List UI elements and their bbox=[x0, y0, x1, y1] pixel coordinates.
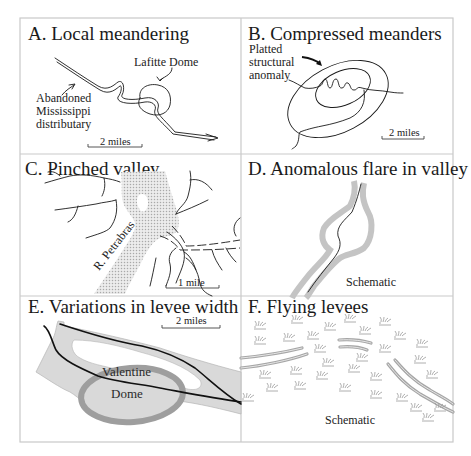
flying-levees-core bbox=[241, 340, 453, 412]
panel-f-title: F. Flying levees bbox=[248, 296, 368, 317]
scale-bar-c: 1 mile bbox=[166, 277, 219, 288]
schematic-label-f: Schematic bbox=[325, 413, 375, 427]
panel-d-title: D. Anomalous flare in valley bbox=[248, 158, 469, 179]
panel-c: C. Pinched valley R. Petrabras bbox=[25, 158, 240, 296]
svg-text:1 mile: 1 mile bbox=[178, 277, 205, 288]
lafitte-arrow bbox=[157, 68, 172, 81]
dashed-channel-2 bbox=[160, 236, 240, 250]
lafitte-dome-label: Lafitte Dome bbox=[134, 55, 198, 69]
geomorphic-anomalies-figure: A. Local meandering Lafitte Dome Abandon… bbox=[0, 0, 471, 456]
marsh-grass-symbols bbox=[242, 314, 446, 421]
panel-f: F. Flying levees bbox=[241, 296, 453, 427]
anomaly-label-2: structural bbox=[249, 55, 295, 69]
dome-label: Dome bbox=[111, 386, 143, 401]
panel-b-title: B. Compressed meanders bbox=[248, 23, 442, 44]
schematic-label-d: Schematic bbox=[346, 275, 396, 289]
dashed-channel bbox=[172, 226, 240, 246]
svg-text:2 miles: 2 miles bbox=[389, 127, 420, 138]
distributary-label-2: Mississippi bbox=[36, 104, 91, 118]
scale-bar-a: 2 miles bbox=[88, 136, 142, 147]
distributary-label-3: distributary bbox=[36, 117, 91, 131]
panel-a: A. Local meandering Lafitte Dome Abandon… bbox=[28, 23, 218, 147]
svg-text:2 miles: 2 miles bbox=[100, 136, 131, 147]
tributary-river bbox=[292, 90, 364, 149]
anomaly-label-3: anomaly bbox=[249, 68, 290, 82]
svg-text:2 miles: 2 miles bbox=[176, 315, 207, 326]
panel-e: E. Variations in levee width Valentine D… bbox=[28, 296, 241, 425]
valley-fill bbox=[94, 171, 179, 294]
panel-d: D. Anomalous flare in valley Schematic bbox=[248, 158, 469, 298]
valentine-label: Valentine bbox=[102, 364, 151, 379]
panel-e-title: E. Variations in levee width bbox=[28, 296, 239, 317]
flying-levees bbox=[241, 340, 453, 412]
panel-b: B. Compressed meanders Platted structura… bbox=[248, 23, 442, 153]
panel-a-title: A. Local meandering bbox=[28, 23, 189, 44]
scale-bar-b: 2 miles bbox=[382, 127, 424, 139]
anomaly-label-1: Platted bbox=[249, 42, 282, 56]
